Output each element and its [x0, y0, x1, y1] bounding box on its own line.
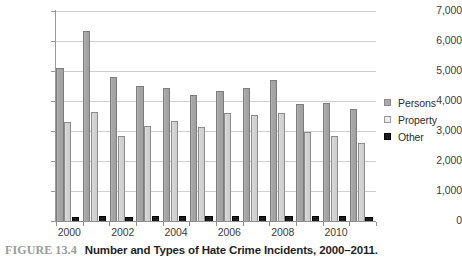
bar-other-2002 [125, 217, 132, 221]
legend-swatch-property-icon [384, 116, 391, 123]
bar-persons-2003 [136, 86, 143, 221]
bar-property-2004 [171, 121, 178, 222]
x-tick-mark [189, 222, 190, 226]
legend-item-other: Other [384, 128, 437, 145]
bar-persons-2006 [216, 91, 223, 222]
bar-persons-2010 [323, 103, 330, 222]
figure-caption: FIGURE 13.4 Number and Types of Hate Cri… [5, 243, 378, 258]
bar-other-2009 [312, 216, 319, 221]
bar-persons-2002 [110, 77, 117, 221]
x-tick-mark [376, 222, 377, 226]
chart-legend: Persons Property Other [384, 94, 437, 145]
bar-property-2002 [118, 136, 125, 221]
bar-property-2009 [304, 132, 311, 221]
x-tick-label-2002: 2002 [103, 226, 143, 238]
x-tick-mark [243, 222, 244, 226]
bar-other-2003 [152, 216, 159, 221]
bar-persons-2004 [163, 88, 170, 222]
bar-persons-2009 [296, 104, 303, 221]
bar-other-2010 [339, 216, 346, 221]
bar-property-2001 [91, 112, 98, 222]
bar-persons-2011 [350, 109, 357, 222]
bar-other-2008 [285, 216, 292, 221]
x-tick-label-2008: 2008 [263, 226, 303, 238]
x-tick-label-2006: 2006 [209, 226, 249, 238]
x-tick-mark [136, 222, 137, 226]
x-tick-mark [296, 222, 297, 226]
figure-container: 01,0002,0003,0004,0005,0006,0007,000 200… [0, 0, 462, 262]
legend-swatch-persons-icon [384, 99, 391, 106]
legend-label-persons: Persons [398, 97, 436, 109]
bar-persons-2007 [243, 88, 250, 222]
x-tick-label-2010: 2010 [316, 226, 356, 238]
bar-property-2008 [278, 113, 285, 221]
bar-property-2006 [224, 113, 231, 221]
bar-persons-2001 [83, 31, 90, 222]
bar-persons-2005 [190, 95, 197, 221]
legend-item-persons: Persons [384, 94, 437, 111]
bar-property-2007 [251, 115, 258, 222]
x-tick-label-2004: 2004 [156, 226, 196, 238]
figure-caption-text: Number and Types of Hate Crime Incidents… [85, 244, 378, 256]
figure-number: FIGURE 13.4 [5, 243, 77, 258]
bar-other-2007 [259, 216, 266, 221]
bar-other-2011 [365, 217, 372, 222]
legend-label-other: Other [398, 131, 424, 143]
bar-property-2000 [64, 122, 71, 221]
bar-other-2001 [99, 216, 106, 221]
x-tick-label-2000: 2000 [49, 226, 89, 238]
legend-swatch-other-icon [384, 133, 391, 140]
legend-item-property: Property [384, 111, 437, 128]
bar-other-2000 [72, 217, 79, 221]
bar-property-2010 [331, 136, 338, 221]
x-tick-mark [83, 222, 84, 226]
bar-property-2011 [358, 143, 365, 221]
bar-property-2003 [144, 126, 151, 221]
bar-other-2005 [205, 216, 212, 221]
bar-other-2006 [232, 216, 239, 221]
bar-persons-2008 [270, 80, 277, 221]
bar-other-2004 [179, 216, 186, 221]
bar-persons-2000 [56, 68, 63, 221]
bar-property-2005 [198, 127, 205, 222]
x-tick-mark [349, 222, 350, 226]
legend-label-property: Property [398, 114, 437, 126]
